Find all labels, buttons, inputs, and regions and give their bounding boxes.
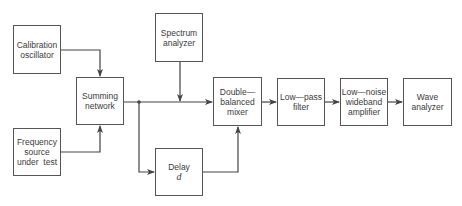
block-label: analyzer (411, 102, 443, 112)
block-label: source (24, 147, 50, 157)
block-label: Spectrum (161, 28, 197, 38)
frequency-source-block: Frequency source under test (13, 128, 61, 176)
delay-symbol: d (177, 172, 182, 182)
block-label: wideband (346, 97, 382, 107)
wire-junction-to-delay (139, 102, 154, 172)
block-label: oscillator (20, 50, 54, 60)
summing-network-block: Summing network (76, 77, 124, 125)
block-label: under test (17, 157, 57, 167)
low-pass-filter-block: Low—pass filter (277, 78, 325, 126)
block-label: amplifier (348, 107, 380, 117)
block-label: Frequency (17, 137, 57, 147)
spectrum-analyzer-block: Spectrum analyzer (155, 13, 203, 62)
block-label: Double— (220, 87, 255, 97)
delay-block: Delay d (155, 148, 203, 196)
junction-dot (137, 100, 141, 104)
block-label: analyzer (163, 38, 195, 48)
low-noise-amplifier-block: Low—noise wideband amplifier (340, 78, 388, 126)
block-label: Summing (82, 91, 118, 101)
block-label: network (85, 101, 115, 111)
block-label: Low—pass (280, 92, 322, 102)
block-label: Calibration (17, 40, 58, 50)
wire-delay-to-mixer (203, 127, 238, 172)
wire-source-to-summing (61, 126, 100, 152)
calibration-oscillator-block: Calibration oscillator (13, 25, 61, 74)
block-label: mixer (227, 107, 248, 117)
block-label: Wave (417, 92, 438, 102)
block-label: filter (293, 102, 309, 112)
wire-calibration-to-summing (61, 50, 100, 76)
mixer-block: Double— balanced mixer (213, 77, 262, 126)
block-label: Low—noise (342, 87, 386, 97)
block-label: balanced (220, 97, 255, 107)
wave-analyzer-block: Wave analyzer (403, 78, 452, 126)
